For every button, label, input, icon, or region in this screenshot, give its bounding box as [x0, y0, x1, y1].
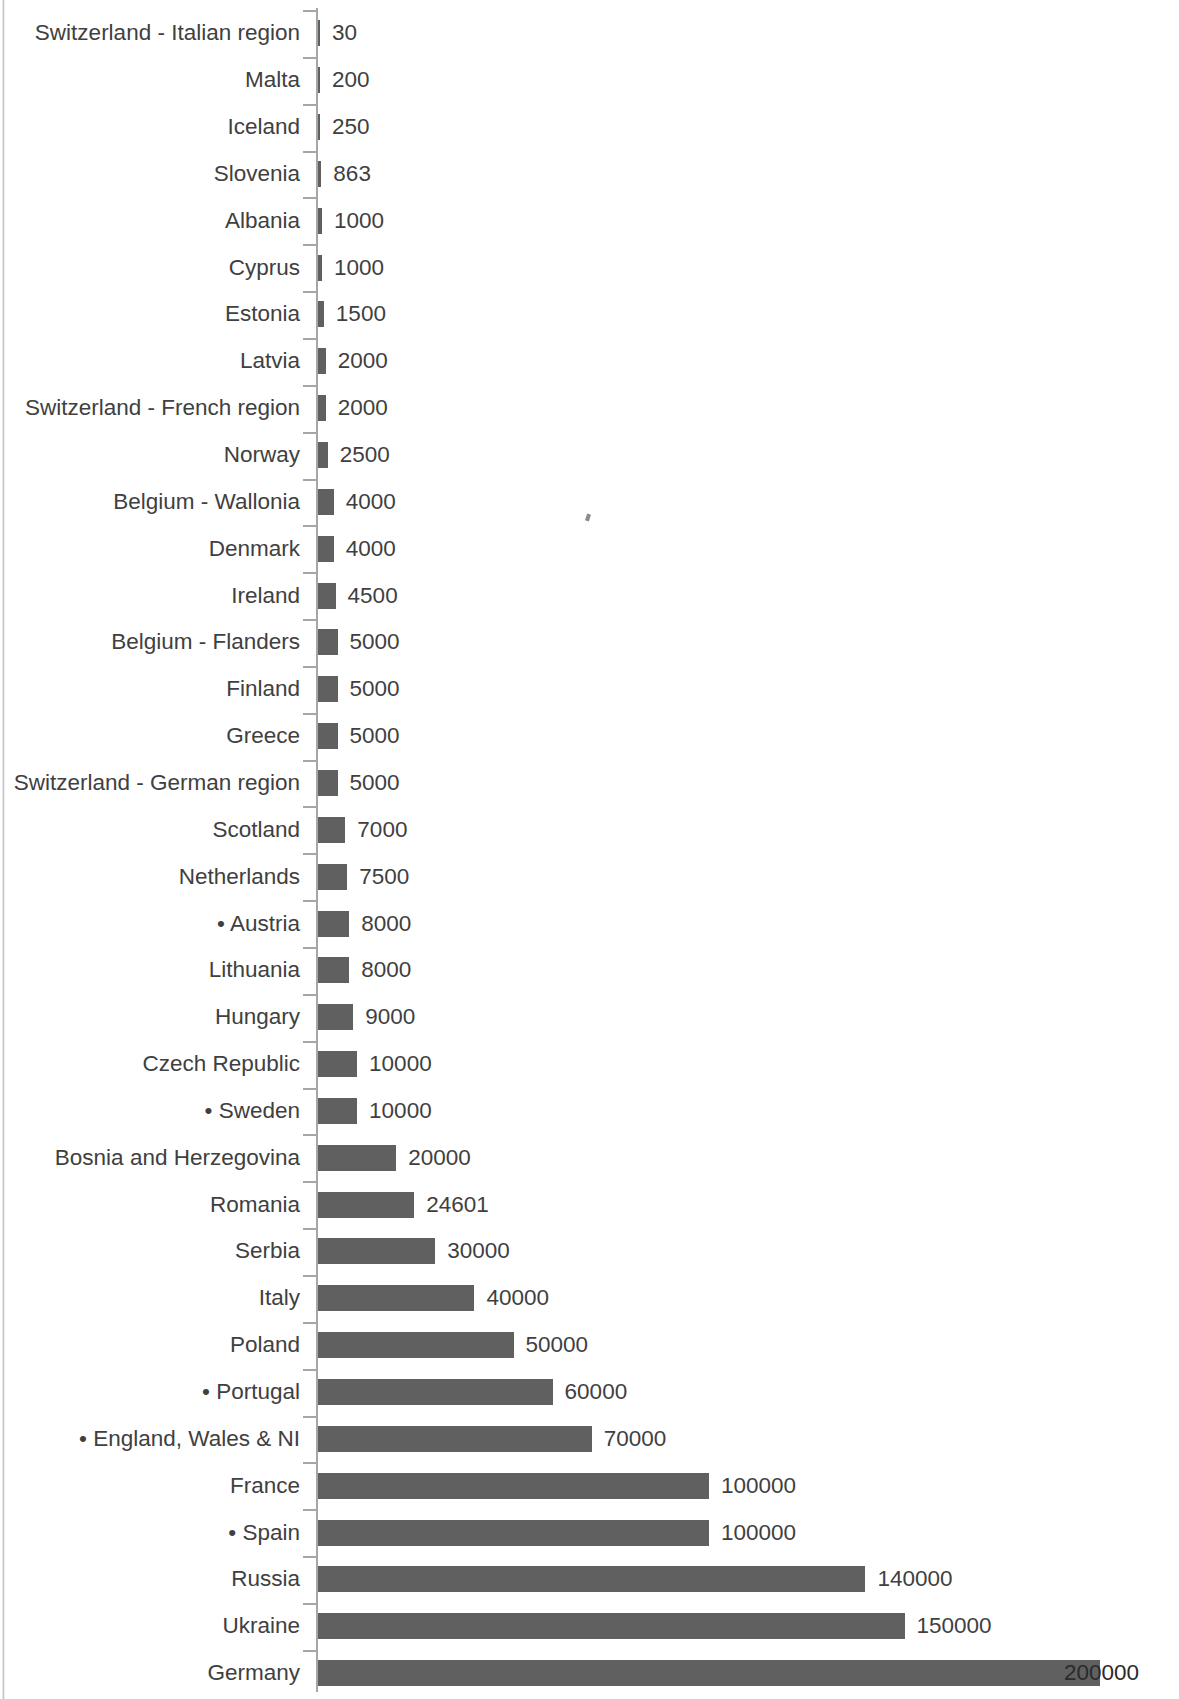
bar-row: Romania24601	[0, 1181, 1179, 1228]
bar	[318, 1285, 474, 1311]
category-label: Bosnia and Herzegovina	[55, 1147, 300, 1170]
axis-tick-mark	[303, 1228, 316, 1230]
bar	[318, 676, 338, 702]
bar-value-label: 8000	[361, 912, 411, 935]
bar-value-label: 200000	[1064, 1662, 1139, 1685]
axis-tick-mark	[303, 1650, 316, 1652]
bar-row: Russia140000	[0, 1556, 1179, 1603]
bar-row: Slovenia863	[0, 151, 1179, 198]
category-label: Switzerland - German region	[14, 772, 300, 795]
category-label: Czech Republic	[142, 1053, 300, 1076]
bar	[318, 583, 336, 609]
category-label: Switzerland - Italian region	[35, 22, 300, 45]
bar	[318, 911, 349, 937]
chart-page: Switzerland - Italian region30Malta200Ic…	[0, 0, 1179, 1699]
category-label: Netherlands	[179, 865, 300, 888]
bar	[318, 1379, 553, 1405]
axis-tick-mark	[303, 900, 316, 902]
category-label: Romania	[210, 1193, 300, 1216]
bar-row: Norway2500	[0, 432, 1179, 479]
axis-tick-mark	[303, 1041, 316, 1043]
bar	[318, 442, 328, 468]
bar-row: • Austria8000	[0, 900, 1179, 947]
bar-row: Switzerland - German region5000	[0, 760, 1179, 807]
bar	[318, 1473, 709, 1499]
bar	[318, 255, 322, 281]
bar-value-label: 30	[332, 22, 357, 45]
axis-tick-mark	[303, 994, 316, 996]
axis-tick-mark	[303, 479, 316, 481]
bar	[318, 1051, 357, 1077]
axis-tick-mark	[303, 806, 316, 808]
bar	[318, 864, 347, 890]
bar	[318, 1566, 865, 1592]
bar	[318, 301, 324, 327]
category-label: • Austria	[217, 912, 300, 935]
bar	[318, 536, 334, 562]
bar-value-label: 50000	[526, 1334, 589, 1357]
bar-value-label: 5000	[350, 678, 400, 701]
bar	[318, 67, 320, 93]
axis-tick-mark	[303, 947, 316, 949]
axis-tick-mark	[303, 1462, 316, 1464]
bar-row: Cyprus1000	[0, 244, 1179, 291]
bar	[318, 20, 320, 46]
bar-row: Poland50000	[0, 1322, 1179, 1369]
bar	[318, 1004, 353, 1030]
bar-row: • Portugal60000	[0, 1369, 1179, 1416]
category-label: Estonia	[225, 303, 300, 326]
category-label: Malta	[245, 69, 300, 92]
bar-row: Albania1000	[0, 197, 1179, 244]
bar-value-label: 140000	[877, 1568, 952, 1591]
category-label: Lithuania	[209, 959, 300, 982]
category-label: Norway	[224, 444, 300, 467]
category-label: Ukraine	[222, 1615, 300, 1638]
bar-row: Italy40000	[0, 1275, 1179, 1322]
axis-tick-mark	[303, 1603, 316, 1605]
bar	[318, 1098, 357, 1124]
category-label: Switzerland - French region	[25, 397, 300, 420]
category-label: • England, Wales & NI	[79, 1428, 300, 1451]
axis-tick-mark	[303, 666, 316, 668]
bar-row: Serbia30000	[0, 1228, 1179, 1275]
category-label: Belgium - Flanders	[111, 631, 300, 654]
bar	[318, 348, 326, 374]
bar-value-label: 30000	[447, 1240, 510, 1263]
bar-row: Lithuania8000	[0, 947, 1179, 994]
axis-tick-mark	[303, 760, 316, 762]
bar	[318, 489, 334, 515]
bar-value-label: 20000	[408, 1147, 471, 1170]
bar	[318, 161, 321, 187]
axis-tick-mark	[303, 1134, 316, 1136]
bar	[318, 1145, 396, 1171]
bar-value-label: 1500	[336, 303, 386, 326]
axis-tick-mark	[303, 572, 316, 574]
axis-tick-mark	[303, 1416, 316, 1418]
bar-row: Ukraine150000	[0, 1603, 1179, 1650]
bar-value-label: 200	[332, 69, 370, 92]
axis-tick-mark	[303, 1509, 316, 1511]
bar-row: • England, Wales & NI70000	[0, 1416, 1179, 1463]
category-label: Denmark	[209, 537, 300, 560]
category-label: Finland	[226, 678, 300, 701]
bar	[318, 114, 320, 140]
bar-value-label: 1000	[334, 210, 384, 233]
bar-row: Ireland4500	[0, 572, 1179, 619]
bar-value-label: 100000	[721, 1474, 796, 1497]
bar-value-label: 1000	[334, 256, 384, 279]
category-label: Albania	[225, 210, 300, 233]
axis-tick-mark	[303, 385, 316, 387]
axis-tick-mark	[303, 10, 316, 12]
bar-value-label: 9000	[365, 1006, 415, 1029]
bar	[318, 1238, 435, 1264]
category-label: Belgium - Wallonia	[113, 491, 300, 514]
bar	[318, 1332, 514, 1358]
bar	[318, 1192, 414, 1218]
bar	[318, 395, 326, 421]
bar-value-label: 2500	[340, 444, 390, 467]
category-label: Slovenia	[214, 163, 300, 186]
bar-row: Czech Republic10000	[0, 1041, 1179, 1088]
bar	[318, 1613, 905, 1639]
axis-tick-mark	[303, 432, 316, 434]
bar-value-label: 24601	[426, 1193, 489, 1216]
